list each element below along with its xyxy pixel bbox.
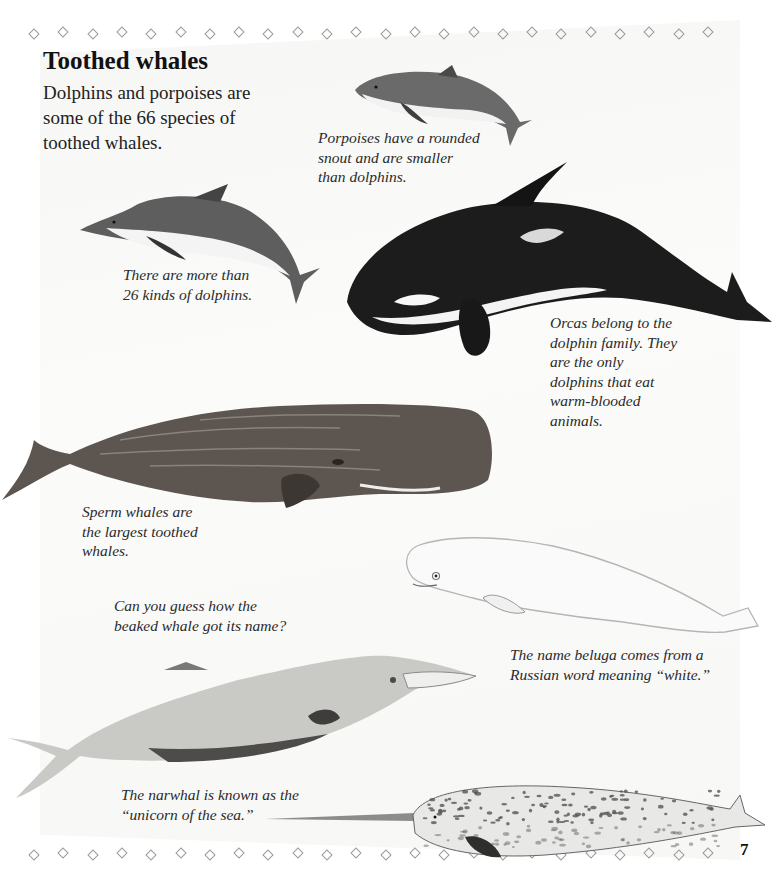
narwhal-spot — [503, 832, 509, 836]
narwhal-spot — [643, 798, 647, 802]
narwhal-spot — [498, 817, 501, 819]
narwhal-spot — [464, 806, 470, 809]
narwhal-spot — [643, 817, 647, 820]
diamond-outline-icon — [702, 26, 713, 37]
narwhal-spot — [711, 824, 715, 827]
narwhal-spot — [590, 821, 593, 824]
narwhal-spot — [467, 799, 471, 802]
narwhal-spot — [526, 829, 531, 833]
narwhal-spot — [698, 824, 704, 827]
narwhal-spot — [626, 841, 630, 845]
narwhal-spot — [516, 835, 521, 838]
narwhal-spot — [438, 809, 442, 813]
narwhal-spot — [554, 810, 559, 814]
narwhal-spot — [620, 817, 627, 820]
narwhal-spot — [584, 805, 588, 807]
narwhal-spot — [590, 806, 596, 810]
narwhal-spot — [423, 817, 428, 819]
narwhal-spot — [463, 830, 468, 834]
narwhal-spot — [609, 795, 612, 798]
narwhal-spot — [558, 838, 563, 840]
narwhal-spot — [692, 822, 695, 824]
narwhal-spot — [583, 836, 589, 838]
narwhal-spot — [556, 820, 559, 824]
narwhal-spot — [459, 834, 466, 837]
narwhal-spot — [587, 808, 591, 812]
narwhal-spot — [427, 803, 430, 806]
narwhal-spot — [575, 812, 581, 816]
narwhal-spot — [453, 815, 459, 817]
diamond-outline-icon — [233, 26, 244, 37]
narwhal-spot — [434, 834, 441, 836]
narwhal-spot — [601, 797, 607, 800]
narwhal-spot — [541, 838, 547, 841]
narwhal-spot — [527, 825, 530, 828]
narwhal-spot — [459, 806, 464, 810]
narwhal-spot — [574, 832, 579, 836]
diamond-outline-icon — [204, 849, 215, 860]
beaked-whale-caption: Can you guess how the beaked whale got i… — [114, 596, 299, 635]
narwhal-spot — [511, 797, 514, 799]
narwhal-spot — [700, 838, 706, 841]
beluga-illustration — [403, 536, 763, 641]
narwhal-spot — [551, 829, 557, 831]
narwhal-spot — [589, 791, 593, 794]
intro-paragraph: Dolphins and porpoises are some of the 6… — [43, 80, 273, 155]
diamond-outline-icon — [321, 28, 332, 39]
narwhal-spot — [711, 818, 714, 821]
diamond-outline-icon — [644, 26, 655, 37]
diamond-outline-icon — [351, 26, 362, 37]
narwhal-spot — [667, 824, 672, 826]
narwhal-spot — [564, 820, 570, 822]
narwhal-spot — [479, 806, 482, 809]
narwhal-spot — [558, 830, 562, 834]
diamond-outline-icon — [87, 28, 98, 39]
narwhal-spot — [624, 790, 628, 793]
narwhal-spot — [641, 807, 644, 810]
narwhal-spot — [657, 828, 661, 831]
narwhal-spot — [598, 827, 603, 829]
narwhal-spot — [620, 798, 626, 800]
narwhal-spot — [570, 821, 573, 823]
narwhal-spot — [689, 809, 693, 811]
narwhal-spot — [620, 790, 623, 792]
diamond-outline-icon — [175, 847, 186, 858]
narwhal-spot — [512, 846, 515, 848]
diamond-outline-icon — [292, 26, 303, 37]
narwhal-spot — [506, 822, 510, 825]
narwhal-spot — [423, 845, 428, 847]
narwhal-spot — [548, 796, 553, 799]
narwhal-spot — [713, 840, 717, 842]
narwhal-spot — [548, 821, 554, 824]
narwhal-spot — [708, 790, 712, 793]
narwhal-spot — [463, 802, 468, 804]
diamond-outline-icon — [468, 26, 479, 37]
narwhal-spot — [542, 805, 547, 807]
narwhal-spot — [614, 826, 618, 830]
narwhal-spot — [582, 813, 585, 817]
narwhal-spot — [571, 792, 575, 795]
narwhal-spot — [607, 813, 612, 817]
narwhal-illustration — [265, 775, 770, 865]
dolphin-caption: There are more than 26 kinds of dolphins… — [123, 265, 263, 304]
narwhal-spot — [554, 794, 561, 797]
diamond-outline-icon — [175, 26, 186, 37]
narwhal-spot — [522, 818, 525, 821]
narwhal-spot — [524, 796, 530, 798]
narwhal-spot — [458, 837, 464, 841]
narwhal-spot — [559, 844, 566, 847]
narwhal-spot — [483, 820, 487, 822]
narwhal-spot — [495, 819, 500, 821]
narwhal-spot — [682, 822, 686, 824]
diamond-outline-icon — [87, 849, 98, 860]
narwhal-spot — [689, 842, 694, 846]
narwhal-spot — [716, 845, 720, 847]
diamond-outline-icon — [28, 849, 39, 860]
narwhal-spot — [599, 814, 602, 818]
narwhal-spot — [462, 790, 468, 794]
narwhal-spot — [662, 828, 665, 831]
sperm-whale-caption: Sperm whales are the largest toothed wha… — [82, 502, 202, 561]
diamond-outline-icon — [585, 26, 596, 37]
narwhal-spot — [612, 812, 618, 814]
narwhal-spot — [487, 811, 493, 814]
